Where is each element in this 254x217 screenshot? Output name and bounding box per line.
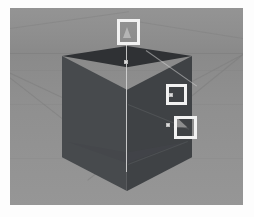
annotation-box-middle [166, 84, 187, 105]
axis-square-handle[interactable] [166, 123, 170, 127]
annotation-box-top [117, 19, 140, 45]
screenshot-root [0, 0, 254, 217]
center-square-handle[interactable] [124, 60, 128, 64]
cube-face-left [62, 56, 127, 191]
annotation-box-bottom [174, 116, 197, 139]
viewport-3d[interactable] [10, 8, 243, 205]
